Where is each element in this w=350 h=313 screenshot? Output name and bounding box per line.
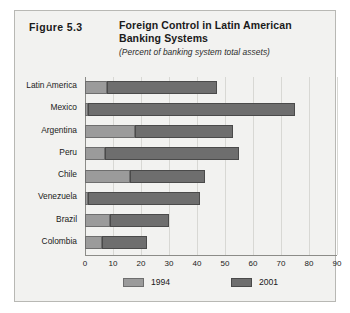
bar-segment-2001	[88, 192, 200, 205]
x-tick-label: 10	[109, 259, 118, 268]
legend-label-2001: 2001	[259, 277, 278, 287]
bar-segment-1994	[85, 236, 102, 249]
bar-segment-2001	[130, 170, 206, 183]
figure-card: Figure 5.3 Foreign Control in Latin Amer…	[14, 10, 336, 302]
legend-label-1994: 1994	[151, 277, 170, 287]
legend-item-2001: 2001	[231, 277, 278, 287]
x-axis-line	[85, 255, 337, 256]
figure-title: Foreign Control in Latin American Bankin…	[119, 19, 325, 44]
bar-segment-2001	[110, 214, 169, 227]
bar-row: Latin America	[15, 77, 337, 99]
chart-bars: Latin AmericaMexicoArgentinaPeruChileVen…	[15, 77, 337, 255]
bar-row: Venezuela	[15, 188, 337, 210]
bar-segment-2001	[105, 147, 239, 160]
bar-group	[85, 81, 217, 94]
bar-row: Colombia	[15, 233, 337, 255]
x-tick-label: 50	[221, 259, 230, 268]
bar-segment-2001	[88, 103, 295, 116]
category-label: Chile	[0, 169, 77, 179]
figure-subtitle: (Percent of banking system total assets)	[119, 47, 325, 57]
category-label: Argentina	[0, 125, 77, 135]
category-label: Venezuela	[0, 191, 77, 201]
figure-header: Figure 5.3 Foreign Control in Latin Amer…	[15, 11, 335, 69]
bar-group	[85, 214, 169, 227]
legend-swatch-1994-icon	[123, 278, 144, 287]
bar-row: Peru	[15, 144, 337, 166]
bar-segment-2001	[135, 125, 233, 138]
x-tick-label: 70	[277, 259, 286, 268]
x-tick-label: 40	[193, 259, 202, 268]
bar-segment-1994	[85, 214, 110, 227]
bar-group	[85, 170, 205, 183]
bar-segment-2001	[102, 236, 147, 249]
bar-group	[85, 236, 147, 249]
category-label: Brazil	[0, 214, 77, 224]
x-tick-label: 0	[83, 259, 87, 268]
bar-group	[85, 192, 200, 205]
category-label: Colombia	[0, 236, 77, 246]
x-tick-label: 90	[333, 259, 342, 268]
gridline	[337, 77, 338, 255]
bar-segment-1994	[85, 147, 105, 160]
legend-swatch-2001-icon	[231, 278, 252, 287]
bar-segment-1994	[85, 170, 130, 183]
figure-number: Figure 5.3	[29, 21, 83, 33]
chart-legend: 1994 2001	[15, 277, 337, 297]
bar-segment-1994	[85, 125, 135, 138]
x-tick-label: 20	[137, 259, 146, 268]
category-label: Mexico	[0, 102, 77, 112]
figure-title-block: Foreign Control in Latin American Bankin…	[119, 19, 325, 57]
bar-row: Argentina	[15, 122, 337, 144]
category-label: Latin America	[0, 80, 77, 90]
bar-group	[85, 147, 239, 160]
x-tick-label: 60	[249, 259, 258, 268]
x-tick-label: 80	[305, 259, 314, 268]
x-tick-label: 30	[165, 259, 174, 268]
bar-group	[85, 125, 233, 138]
legend-item-1994: 1994	[123, 277, 170, 287]
bar-row: Chile	[15, 166, 337, 188]
bar-segment-2001	[107, 81, 216, 94]
bar-group	[85, 103, 295, 116]
bar-segment-1994	[85, 81, 107, 94]
category-label: Peru	[0, 147, 77, 157]
chart-plot-area: Latin AmericaMexicoArgentinaPeruChileVen…	[15, 73, 337, 301]
bar-row: Brazil	[15, 211, 337, 233]
bar-row: Mexico	[15, 99, 337, 121]
